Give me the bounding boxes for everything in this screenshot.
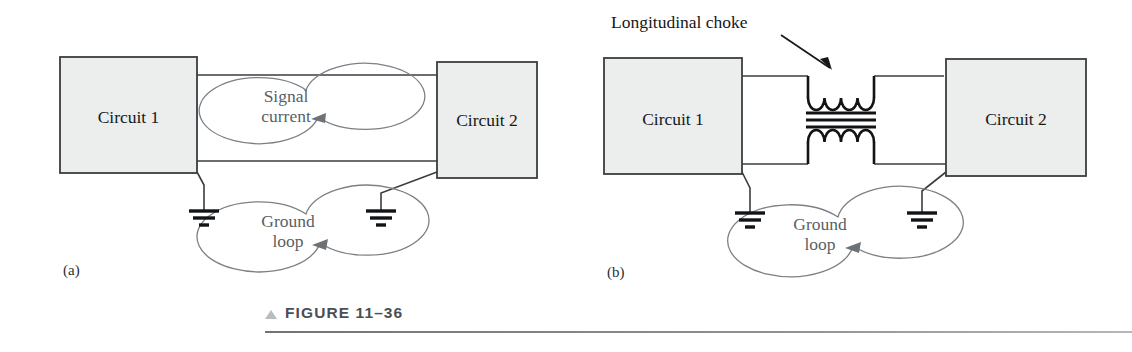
ground-loop-arrowhead: [845, 242, 861, 253]
ground-lead-right: [922, 172, 946, 213]
callout-arrow-line: [781, 35, 830, 68]
triangle-up-icon: [265, 310, 277, 319]
ground-loop-label-line1: Ground: [261, 211, 315, 231]
figure-caption: FIGURE 11–36: [285, 304, 403, 322]
ground-symbol-left: [735, 213, 765, 227]
choke-core-bars: [806, 113, 876, 127]
panel-b-diagram: Circuit 1 Circuit 2: [566, 0, 1132, 300]
panel-b-letter: (b): [607, 264, 625, 281]
ground-lead-left: [197, 172, 204, 211]
signal-current-arrowhead: [311, 113, 326, 123]
panel-b: Circuit 1 Circuit 2: [566, 0, 1132, 300]
signal-current-label-line1: Signal: [264, 86, 309, 106]
ground-loop-label-line2: loop: [804, 234, 835, 254]
ground-symbol-right: [366, 211, 396, 225]
signal-current-label-line2: current: [261, 106, 311, 126]
ground-loop-arrowhead: [312, 239, 328, 250]
panel-a: Circuit 1 Circuit 2 Signal current Groun…: [0, 0, 566, 300]
figure-page: Circuit 1 Circuit 2 Signal current Groun…: [0, 0, 1132, 352]
panel-a-diagram: Circuit 1 Circuit 2 Signal current Groun…: [0, 0, 566, 300]
ground-loop: Ground loop: [197, 185, 429, 272]
ground-loop-label-line1: Ground: [793, 214, 847, 234]
ground-lead-right: [381, 172, 437, 211]
ground-loop: Ground loop: [728, 186, 964, 277]
circuit-1-label: Circuit 1: [98, 107, 160, 127]
circuit-2-label: Circuit 2: [985, 109, 1047, 129]
choke-coil-upper: [808, 98, 874, 110]
ground-loop-label-line2: loop: [272, 231, 303, 251]
figure-caption-row: FIGURE 11–36: [0, 300, 1132, 352]
circuit-2-label: Circuit 2: [456, 110, 518, 130]
caption-divider: [265, 331, 1132, 333]
choke-coil-lower: [808, 130, 874, 142]
longitudinal-choke: [806, 76, 876, 164]
ground-lead-left: [742, 172, 750, 213]
panel-a-letter: (a): [63, 262, 80, 279]
circuit-1-label: Circuit 1: [642, 109, 704, 129]
ground-symbol-right: [907, 213, 937, 227]
longitudinal-choke-callout-label: Longitudinal choke: [611, 12, 748, 32]
